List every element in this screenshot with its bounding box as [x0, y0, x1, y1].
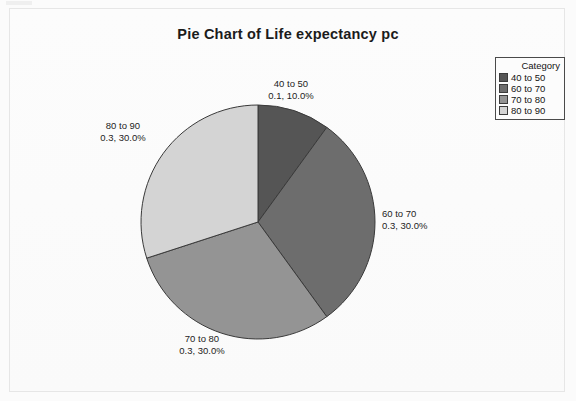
- legend-item-label: 60 to 70: [511, 83, 545, 94]
- pie-slice-label-value: 0.1, 10.0%: [268, 90, 313, 102]
- pie-slice-label-category: 70 to 80: [179, 333, 224, 345]
- legend-items: 40 to 5060 to 7070 to 8080 to 90: [499, 72, 561, 116]
- legend-swatch-icon: [499, 106, 508, 115]
- legend-swatch-icon: [499, 73, 508, 82]
- pie-slice-label: 70 to 800.3, 30.0%: [179, 333, 224, 357]
- pie-slice-label-category: 40 to 50: [268, 78, 313, 90]
- pie-slice-label-value: 0.3, 30.0%: [179, 345, 224, 357]
- pie-slice-label-category: 80 to 90: [100, 120, 145, 132]
- screenshot-root: Pie Chart of Life expectancy pc 40 to 50…: [0, 0, 576, 401]
- legend-item-label: 40 to 50: [511, 72, 545, 83]
- legend-item[interactable]: 80 to 90: [499, 105, 561, 116]
- pie-slice-label-value: 0.3, 30.0%: [382, 220, 427, 232]
- legend-item[interactable]: 40 to 50: [499, 72, 561, 83]
- pie-slice-label: 80 to 900.3, 30.0%: [100, 120, 145, 144]
- legend-swatch-icon: [499, 84, 508, 93]
- pie-slice-group: [141, 105, 375, 339]
- pie-chart: [0, 0, 576, 401]
- legend-title: Category: [499, 60, 561, 71]
- pie-slice-label: 40 to 500.1, 10.0%: [268, 78, 313, 102]
- pie-slice-label-value: 0.3, 30.0%: [100, 132, 145, 144]
- legend-item[interactable]: 60 to 70: [499, 83, 561, 94]
- legend-item-label: 80 to 90: [511, 105, 545, 116]
- legend-item[interactable]: 70 to 80: [499, 94, 561, 105]
- legend: Category 40 to 5060 to 7070 to 8080 to 9…: [495, 57, 565, 120]
- pie-slice-label-category: 60 to 70: [382, 208, 427, 220]
- legend-swatch-icon: [499, 95, 508, 104]
- pie-slice-label: 60 to 700.3, 30.0%: [382, 208, 427, 232]
- legend-item-label: 70 to 80: [511, 94, 545, 105]
